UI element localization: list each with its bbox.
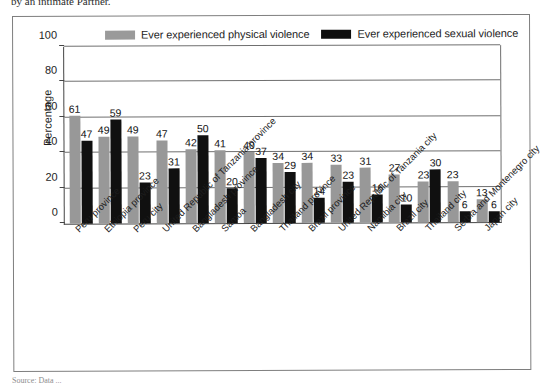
- bar-value-label: 61: [69, 103, 81, 115]
- y-axis-tick-label: 80: [45, 64, 57, 76]
- y-axis-tick-label: 100: [39, 29, 57, 41]
- bar-value-label: 31: [168, 155, 180, 167]
- y-axis-tick-label: 0: [52, 206, 58, 218]
- y-axis-tick-label: 40: [45, 135, 57, 147]
- bar-group: 6147: [69, 47, 90, 224]
- legend-swatch-physical-icon: [105, 30, 135, 39]
- bar-value-label: 31: [360, 155, 372, 167]
- bar-value-label: 23: [342, 169, 354, 181]
- bar-value-label: 34: [272, 150, 284, 162]
- bar-value-label: 59: [110, 106, 122, 118]
- figure-container: Ever experienced physical violence Ever …: [12, 14, 531, 372]
- legend-swatch-sexual-icon: [321, 29, 351, 38]
- bar-value-label: 47: [81, 128, 93, 140]
- bar-value-label: 47: [156, 127, 168, 139]
- bar-value-label: 37: [255, 145, 267, 157]
- bar-value-label: 50: [197, 122, 209, 134]
- bar-value-label: 23: [447, 169, 459, 181]
- caption-top-fragment: by an intimate Partner.: [11, 0, 311, 7]
- legend-label-sexual: Ever experienced sexual violence: [357, 27, 518, 40]
- y-axis-tick-label: 60: [45, 100, 57, 112]
- bar-value-label: 34: [301, 150, 313, 162]
- bar-value-label: 49: [98, 124, 110, 136]
- legend-item-physical: Ever experienced physical violence: [105, 28, 309, 41]
- bar-value-label: 23: [418, 169, 430, 181]
- bar-physical[interactable]: 61: [69, 116, 80, 224]
- legend-item-sexual: Ever experienced sexual violence: [321, 27, 518, 40]
- bar-value-label: 29: [284, 159, 296, 171]
- y-axis-tick-label: 20: [45, 170, 57, 182]
- chart-legend: Ever experienced physical violence Ever …: [105, 27, 518, 41]
- caption-bottom-fragment: Source: Data ...: [12, 376, 332, 386]
- bar-value-label: 42: [185, 136, 197, 148]
- bar-value-label: 41: [214, 138, 226, 150]
- bar-value-label: 33: [330, 151, 342, 163]
- bar-group: 4731: [156, 46, 177, 223]
- category-labels-group: Peru provinceEthiopia provincePeru cityU…: [64, 225, 524, 357]
- legend-label-physical: Ever experienced physical violence: [141, 28, 309, 41]
- bar-value-label: 49: [127, 124, 139, 136]
- bar-value-label: 30: [430, 156, 442, 168]
